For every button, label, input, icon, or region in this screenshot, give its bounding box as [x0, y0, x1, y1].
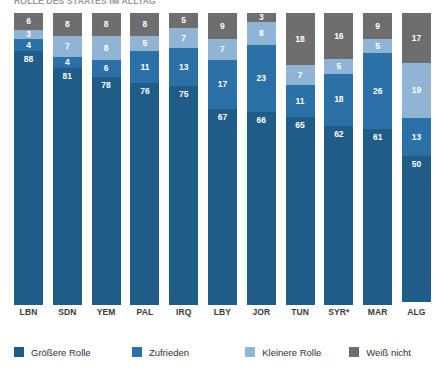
bar-segment: 76: [130, 83, 159, 305]
bar-segment: 4: [53, 57, 82, 69]
legend-item[interactable]: Zufrieden: [132, 347, 225, 358]
x-axis-label-sdn: SDN: [53, 307, 82, 321]
x-axis-label-alg: ALG: [402, 307, 431, 321]
bar-segment: 3: [247, 13, 276, 22]
bar-segment: 62: [324, 126, 353, 305]
bar-segment: 81: [53, 68, 82, 305]
bar-segment: 8: [247, 22, 276, 45]
bar-segment: 5: [169, 13, 198, 28]
bar-segment: 8: [92, 13, 121, 36]
bar-value-label: 13: [412, 132, 421, 141]
bar-column-tun: 1871165: [286, 13, 315, 305]
bar-value-label: 67: [218, 113, 227, 122]
bar-segment: 75: [169, 86, 198, 305]
bar-column-lbn: 63488: [14, 13, 43, 305]
bar-column-mar: 952661: [363, 13, 392, 305]
bar-segment: 6: [14, 13, 43, 30]
legend-swatch-icon: [132, 347, 142, 357]
bar-value-label: 8: [104, 20, 109, 29]
bar-value-label: 6: [104, 64, 109, 73]
bar-value-label: 17: [218, 80, 227, 89]
bar-segment: 67: [208, 109, 237, 305]
bar-segment: 4: [14, 39, 43, 51]
bar-segment: 7: [169, 28, 198, 48]
bar-value-label: 3: [26, 30, 31, 38]
bar-column-lby: 971767: [208, 13, 237, 305]
bar-column-yem: 88678: [92, 13, 121, 305]
bar-segment: 9: [363, 13, 392, 39]
bar-segment: 3: [14, 30, 43, 39]
bar-segment: 78: [92, 77, 121, 305]
x-axis-tick-labels: LBNSDNYEMPALIRQLBYJORTUNSYR*MARALG: [14, 307, 431, 321]
bar-column-sdn: 87481: [53, 13, 82, 305]
bar-segment: 18: [324, 74, 353, 126]
bar-value-label: 18: [295, 34, 304, 43]
bar-value-label: 7: [298, 70, 303, 79]
bar-segment: 13: [169, 48, 198, 86]
chart-title: ROLLE DES STAATES IM ALLTAG: [14, 0, 156, 5]
plot-area: 6348887481886788511765713759717673823661…: [14, 13, 431, 305]
bar-segment: 50: [402, 156, 431, 302]
legend-swatch-icon: [14, 347, 24, 357]
bar-value-label: 65: [295, 121, 304, 130]
bar-value-label: 3: [259, 13, 264, 21]
bar-value-label: 9: [375, 21, 380, 30]
stacked-bar-chart: ROLLE DES STAATES IM ALLTAG 634888748188…: [0, 0, 445, 375]
bar-value-label: 4: [26, 40, 31, 49]
legend-swatch-icon: [245, 347, 255, 357]
legend-label: Größere Rolle: [31, 347, 91, 358]
bar-value-label: 11: [296, 96, 305, 105]
bar-segment: 11: [130, 51, 159, 83]
bar-value-label: 62: [334, 129, 343, 138]
bar-segment: 11: [286, 85, 315, 117]
bar-value-label: 75: [179, 89, 188, 98]
bar-value-label: 5: [143, 39, 148, 48]
bar-value-label: 6: [26, 17, 31, 26]
bar-value-label: 5: [375, 41, 380, 50]
x-axis-label-lby: LBY: [208, 307, 237, 321]
bar-column-irq: 571375: [169, 13, 198, 305]
bar-segment: 5: [130, 36, 159, 51]
bar-segment: 66: [247, 112, 276, 305]
bar-segment: 6: [92, 60, 121, 78]
legend-item[interactable]: Kleinere Rolle: [245, 347, 329, 358]
legend-label: Kleinere Rolle: [262, 347, 321, 358]
bar-segment: 8: [53, 13, 82, 36]
legend-item[interactable]: Größere Rolle: [14, 347, 112, 358]
bar-column-syr: 1651862: [324, 13, 353, 305]
bar-value-label: 8: [104, 43, 109, 52]
bar-segment: 19: [402, 63, 431, 118]
bar-column-pal: 851176: [130, 13, 159, 305]
bar-segment: 88: [14, 51, 43, 305]
bar-segment: 7: [53, 36, 82, 56]
bar-segment: 7: [208, 39, 237, 59]
x-axis-label-irq: IRQ: [169, 307, 198, 321]
x-axis-label-syr: SYR*: [324, 307, 353, 321]
bar-value-label: 4: [65, 58, 70, 67]
bar-value-label: 5: [181, 16, 186, 25]
x-axis-label-tun: TUN: [286, 307, 315, 321]
x-axis-label-jor: JOR: [247, 307, 276, 321]
bar-segment: 9: [208, 13, 237, 39]
bar-value-label: 7: [65, 42, 70, 51]
bar-segment: 5: [363, 39, 392, 53]
legend-item[interactable]: Weiß nicht: [349, 347, 411, 358]
bar-value-label: 7: [220, 45, 225, 54]
bar-segment: 5: [324, 59, 353, 73]
bar-value-label: 7: [181, 33, 186, 42]
bar-value-label: 18: [334, 95, 343, 104]
bar-value-label: 66: [257, 116, 266, 125]
bar-segment: 18: [286, 13, 315, 65]
bar-value-label: 17: [412, 33, 421, 42]
bar-column-jor: 382366: [247, 13, 276, 305]
legend-label: Zufrieden: [149, 347, 189, 358]
bar-value-label: 26: [373, 86, 382, 95]
bar-value-label: 13: [179, 62, 188, 71]
x-axis-label-yem: YEM: [92, 307, 121, 321]
bar-segment: 7: [286, 65, 315, 85]
bar-column-alg: 17191350: [402, 13, 431, 305]
bar-value-label: 8: [65, 20, 70, 29]
bar-value-label: 88: [24, 54, 33, 63]
bar-value-label: 23: [257, 74, 266, 83]
bar-value-label: 11: [140, 62, 149, 71]
